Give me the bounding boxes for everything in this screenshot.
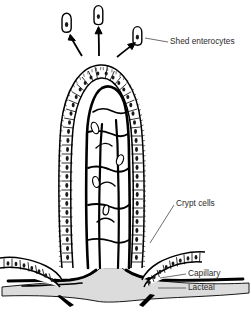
- label-shed-enterocytes: Shed enterocytes: [170, 36, 235, 46]
- label-crypt-cells: Crypt cells: [176, 198, 215, 208]
- shed-cell-1: [62, 13, 71, 32]
- label-lacteal: Lacteal: [188, 282, 215, 292]
- shed-cell-2: [94, 6, 103, 25]
- label-capillary: Capillary: [188, 268, 221, 278]
- villus-diagram: Shed enterocytes Crypt cells Capillary L…: [0, 0, 251, 316]
